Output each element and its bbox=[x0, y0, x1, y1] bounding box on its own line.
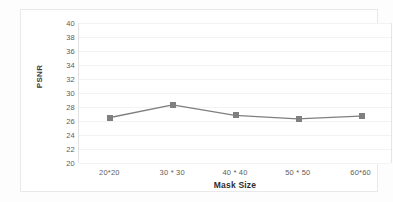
data-point-marker bbox=[296, 116, 302, 122]
y-axis-tick-label: 34 bbox=[66, 61, 75, 70]
y-axis-tick-label: 22 bbox=[66, 145, 75, 154]
chart-frame: PSNR 4038363432302826242220 20*2030 * 30… bbox=[20, 9, 378, 192]
data-point-marker bbox=[359, 113, 365, 119]
x-axis-tick-label: 30 * 30 bbox=[160, 168, 185, 177]
chart-page: PSNR 4038363432302826242220 20*2030 * 30… bbox=[0, 0, 393, 202]
y-axis-tick-label: 24 bbox=[66, 131, 75, 140]
plot-area bbox=[78, 23, 392, 163]
y-axis-tick-label: 36 bbox=[66, 47, 75, 56]
data-point-marker bbox=[170, 102, 176, 108]
series-line-psnr bbox=[79, 23, 391, 163]
y-axis-tick-label: 30 bbox=[66, 89, 75, 98]
x-axis-tick-label: 50 * 50 bbox=[285, 168, 310, 177]
data-point-marker bbox=[107, 115, 113, 121]
x-axis-title: Mask Size bbox=[78, 180, 392, 190]
y-axis-ticks: 4038363432302826242220 bbox=[41, 23, 77, 163]
x-axis-tick-label: 60*60 bbox=[350, 168, 371, 177]
y-axis-tick-label: 32 bbox=[66, 75, 75, 84]
y-axis-tick-label: 28 bbox=[66, 103, 75, 112]
x-axis-tick-label: 20*20 bbox=[99, 168, 120, 177]
data-point-marker bbox=[233, 112, 239, 118]
gridline bbox=[79, 163, 391, 164]
y-axis-tick-label: 40 bbox=[66, 19, 75, 28]
y-axis-tick-label: 20 bbox=[66, 159, 75, 168]
y-axis-tick-label: 26 bbox=[66, 117, 75, 126]
y-axis-tick-label: 38 bbox=[66, 33, 75, 42]
x-axis-tick-label: 40 * 40 bbox=[222, 168, 247, 177]
